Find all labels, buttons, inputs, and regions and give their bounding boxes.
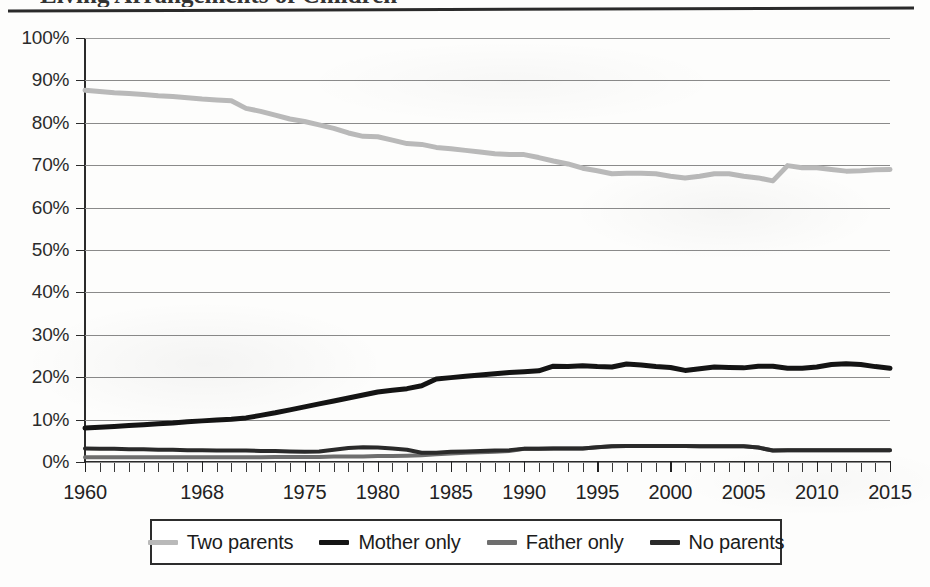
- x-axis-label: 1968: [180, 481, 224, 504]
- x-axis-minor-tick: [539, 463, 540, 472]
- legend-item[interactable]: Mother only: [319, 531, 460, 554]
- x-axis-major-tick: [817, 461, 818, 472]
- x-axis-minor-tick: [568, 463, 569, 472]
- series-lines: [85, 38, 890, 462]
- chart-legend: Two parentsMother onlyFather onlyNo pare…: [150, 519, 782, 565]
- y-axis-tick: [76, 38, 85, 39]
- x-axis-minor-tick: [334, 463, 335, 472]
- x-axis-minor-tick: [861, 463, 862, 472]
- x-axis-minor-tick: [275, 463, 276, 472]
- x-axis-major-tick: [305, 461, 306, 472]
- y-axis-tick: [76, 462, 85, 463]
- x-axis-minor-tick: [114, 463, 115, 472]
- x-axis-minor-tick: [773, 463, 774, 472]
- legend-swatch-icon: [650, 540, 680, 545]
- chart-page: Living Arrangements of Children 0%10%20%…: [0, 0, 930, 587]
- y-axis-label: 80%: [0, 112, 69, 134]
- x-axis-minor-tick: [641, 463, 642, 472]
- y-axis-tick: [76, 208, 85, 209]
- x-axis-minor-tick: [480, 463, 481, 472]
- x-axis-major-tick: [670, 461, 671, 472]
- x-axis-minor-tick: [729, 463, 730, 472]
- x-axis-minor-tick: [656, 463, 657, 472]
- x-axis-major-tick: [890, 461, 891, 472]
- x-axis-major-tick: [202, 461, 203, 472]
- series-line: [85, 364, 890, 428]
- x-axis-minor-tick: [129, 463, 130, 472]
- x-axis-minor-tick: [217, 463, 218, 472]
- y-axis-tick: [76, 123, 85, 124]
- y-axis-label: 90%: [0, 69, 69, 91]
- y-axis-label: 40%: [0, 281, 69, 303]
- x-axis-label: 2010: [795, 481, 839, 504]
- x-axis-minor-tick: [246, 463, 247, 472]
- y-axis-tick: [76, 165, 85, 166]
- plot-area: 0%10%20%30%40%50%60%70%80%90%100% 196019…: [85, 38, 890, 462]
- y-axis-label: 20%: [0, 366, 69, 388]
- x-axis-minor-tick: [363, 463, 364, 472]
- x-axis-major-tick: [378, 461, 379, 472]
- x-axis-label: 1975: [283, 481, 327, 504]
- legend-swatch-icon: [319, 540, 349, 545]
- x-axis-minor-tick: [612, 463, 613, 472]
- legend-item-label: No parents: [689, 531, 785, 554]
- legend-item[interactable]: No parents: [650, 531, 785, 554]
- x-axis-label: 1960: [63, 481, 107, 504]
- legend-item[interactable]: Two parents: [148, 531, 294, 554]
- line-chart: 0%10%20%30%40%50%60%70%80%90%100% 196019…: [0, 14, 930, 514]
- y-axis-label: 30%: [0, 324, 69, 346]
- y-axis-tick: [76, 292, 85, 293]
- legend-swatch-icon: [148, 540, 178, 545]
- x-axis-major-tick: [744, 461, 745, 472]
- legend-item-label: Mother only: [358, 531, 460, 554]
- series-line: [85, 446, 890, 453]
- x-axis-minor-tick: [100, 463, 101, 472]
- y-axis-tick: [76, 250, 85, 251]
- x-axis-minor-tick: [187, 463, 188, 472]
- y-axis-label: 50%: [0, 239, 69, 261]
- x-axis-label: 2015: [868, 481, 912, 504]
- x-axis-label: 1980: [356, 481, 400, 504]
- x-axis-minor-tick: [290, 463, 291, 472]
- legend-item[interactable]: Father only: [487, 531, 624, 554]
- x-axis-minor-tick: [436, 463, 437, 472]
- x-axis-minor-tick: [627, 463, 628, 472]
- y-axis-label: 70%: [0, 154, 69, 176]
- legend-item-label: Father only: [526, 531, 624, 554]
- x-axis-minor-tick: [392, 463, 393, 472]
- x-axis-minor-tick: [422, 463, 423, 472]
- y-axis-tick: [76, 420, 85, 421]
- x-axis-minor-tick: [831, 463, 832, 472]
- x-axis-minor-tick: [173, 463, 174, 472]
- x-axis-minor-tick: [231, 463, 232, 472]
- x-axis-major-tick: [524, 461, 525, 472]
- page-title: Living Arrangements of Children: [40, 0, 680, 7]
- x-axis-minor-tick: [407, 463, 408, 472]
- y-axis-tick: [76, 335, 85, 336]
- x-axis-minor-tick: [875, 463, 876, 472]
- x-axis-label: 1995: [575, 481, 619, 504]
- x-axis-minor-tick: [846, 463, 847, 472]
- x-axis-minor-tick: [466, 463, 467, 472]
- y-axis-label: 10%: [0, 409, 69, 431]
- y-axis-tick: [76, 80, 85, 81]
- y-axis-label: 60%: [0, 197, 69, 219]
- x-axis-minor-tick: [583, 463, 584, 472]
- x-axis-major-tick: [451, 461, 452, 472]
- x-axis-minor-tick: [700, 463, 701, 472]
- legend-item-label: Two parents: [187, 531, 294, 554]
- x-axis-label: 1985: [429, 481, 473, 504]
- x-axis-major-tick: [85, 461, 86, 472]
- x-axis-minor-tick: [144, 463, 145, 472]
- header-divider: [8, 7, 914, 13]
- x-axis-minor-tick: [509, 463, 510, 472]
- series-line: [85, 90, 890, 181]
- x-axis-minor-tick: [714, 463, 715, 472]
- x-axis-major-tick: [597, 461, 598, 472]
- y-axis-label: 100%: [0, 27, 69, 49]
- x-axis-minor-tick: [495, 463, 496, 472]
- x-axis-label: 1990: [502, 481, 546, 504]
- x-axis-minor-tick: [348, 463, 349, 472]
- x-axis-minor-tick: [685, 463, 686, 472]
- y-axis-label: 0%: [0, 451, 69, 473]
